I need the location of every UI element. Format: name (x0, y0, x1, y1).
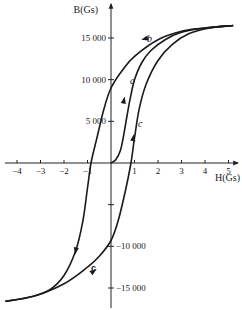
x-tick-label: 1 (132, 166, 137, 176)
x-ticks: −4−3−2−112345 (12, 160, 231, 176)
axes (5, 4, 238, 308)
x-tick-label: 4 (203, 166, 208, 176)
direction-arrow-icon (121, 96, 128, 104)
x-tick-label: −3 (36, 166, 46, 176)
curve-label-c: c (91, 263, 96, 273)
y-axis-title: B(Gs) (74, 4, 98, 16)
curve-label-a: a (130, 75, 135, 86)
x-tick-label: 2 (156, 166, 161, 176)
chart-svg: −4−3−2−112345 15 00010 0005 000−10 000−1… (0, 0, 242, 310)
x-tick-label: −4 (12, 166, 22, 176)
curve-label-b: b (147, 33, 152, 44)
y-tick-label: −15 000 (116, 283, 146, 293)
curve-labels: abcc (91, 33, 152, 273)
y-tick-label: 10 000 (81, 75, 106, 85)
y-tick-label: −10 000 (116, 241, 146, 251)
y-tick-label: 15 000 (81, 33, 106, 43)
hysteresis-chart: −4−3−2−112345 15 00010 0005 000−10 000−1… (0, 0, 242, 310)
x-tick-label: 3 (179, 166, 184, 176)
curve-a (111, 26, 233, 164)
x-tick-label: −2 (59, 166, 69, 176)
curve-label-c: c (138, 118, 143, 129)
direction-arrow-icon (73, 247, 79, 255)
y-tick-label: 5 000 (86, 116, 107, 126)
x-axis-title: H(Gs) (215, 172, 240, 184)
